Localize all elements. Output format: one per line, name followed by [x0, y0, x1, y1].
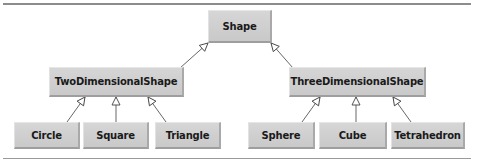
- node-label: Cube: [339, 130, 367, 141]
- node-triangle: Triangle: [155, 122, 221, 149]
- node-two-dimensional-shape: TwoDimensionalShape: [49, 67, 184, 97]
- node-label: Shape: [222, 21, 256, 32]
- edge-triangle-to-two: [148, 97, 166, 122]
- node-label: ThreeDimensionalShape: [291, 76, 424, 87]
- node-label: Square: [96, 130, 135, 141]
- node-cube: Cube: [319, 122, 387, 149]
- node-label: TwoDimensionalShape: [55, 76, 178, 87]
- node-shape: Shape: [208, 10, 272, 43]
- node-three-dimensional-shape: ThreeDimensionalShape: [289, 67, 426, 97]
- node-label: Triangle: [166, 130, 210, 141]
- node-sphere: Sphere: [248, 122, 315, 149]
- bottom-rule: [3, 158, 471, 159]
- node-label: Tetrahedron: [394, 130, 461, 141]
- node-circle: Circle: [14, 122, 80, 149]
- node-tetrahedron: Tetrahedron: [391, 122, 465, 149]
- edge-two-to-shape: [180, 43, 208, 68]
- node-label: Sphere: [262, 130, 301, 141]
- edge-three-to-shape: [271, 43, 293, 68]
- node-square: Square: [83, 122, 149, 149]
- node-label: Circle: [31, 130, 62, 141]
- edge-sphere-to-three: [302, 97, 320, 122]
- edge-circle-to-two: [67, 97, 85, 122]
- edge-tetrahedron-to-three: [393, 97, 411, 122]
